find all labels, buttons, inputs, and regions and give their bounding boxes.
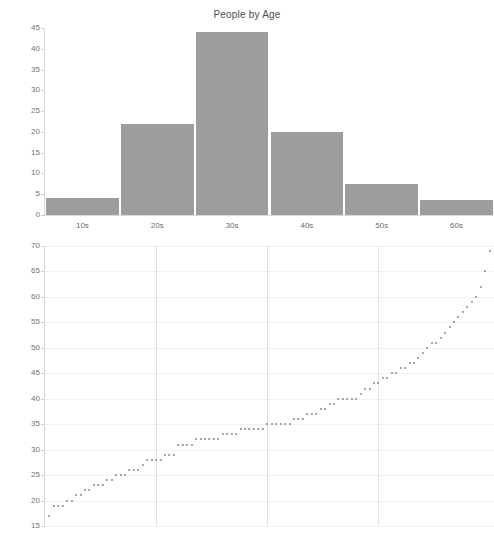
histogram-bar (45, 198, 120, 215)
scatter-point (71, 500, 73, 502)
histogram-y-tick-mark (41, 70, 44, 71)
histogram-bar (419, 200, 494, 215)
histogram-y-tick-label: 20 (12, 128, 40, 136)
scatter-point (480, 286, 482, 288)
histogram-y-tick-mark (41, 215, 44, 216)
scatter-point (240, 428, 242, 430)
scatter-point (311, 413, 313, 415)
scatter-point (435, 342, 437, 344)
histogram-y-tick-label: 35 (12, 66, 40, 74)
histogram-y-tick-label: 30 (12, 86, 40, 94)
scatter-y-tick-label: 35 (12, 420, 40, 428)
scatter-point (293, 418, 295, 420)
scatter-point (329, 403, 331, 405)
scatter-point (186, 444, 188, 446)
scatter-y-tick-label: 25 (12, 471, 40, 479)
scatter-point (111, 479, 113, 481)
histogram-bar (195, 32, 270, 215)
scatter-point (155, 459, 157, 461)
scatter-point (369, 388, 371, 390)
scatter-chart: 152025303540455055606570 (0, 237, 494, 543)
scatter-y-axis (44, 246, 45, 527)
scatter-point (320, 408, 322, 410)
scatter-point (351, 398, 353, 400)
histogram-x-tick-label: 20s (120, 222, 195, 230)
scatter-point (289, 423, 291, 425)
histogram-x-tick-label: 60s (419, 222, 494, 230)
histogram-y-tick-label: 45 (12, 24, 40, 32)
scatter-horizontal-gridline (45, 501, 494, 502)
scatter-point (364, 388, 366, 390)
histogram-y-tick-mark (41, 90, 44, 91)
histogram-y-tick-label: 40 (12, 45, 40, 53)
scatter-vertical-gridline (378, 246, 379, 526)
scatter-point (409, 362, 411, 364)
scatter-point (62, 505, 64, 507)
scatter-y-tick-label: 65 (12, 267, 40, 275)
histogram-y-tick-mark (41, 153, 44, 154)
scatter-point (173, 454, 175, 456)
histogram-y-tick-label: 15 (12, 149, 40, 157)
histogram-y-tick-mark (41, 132, 44, 133)
scatter-y-tick-label: 20 (12, 497, 40, 505)
scatter-point (164, 454, 166, 456)
scatter-y-tick-label: 60 (12, 293, 40, 301)
scatter-point (142, 464, 144, 466)
scatter-y-tick-mark (41, 373, 44, 374)
scatter-y-tick-mark (41, 450, 44, 451)
scatter-y-tick-mark (41, 475, 44, 476)
histogram-y-axis (44, 28, 45, 216)
scatter-point (440, 337, 442, 339)
histogram-y-tick-label: 10 (12, 169, 40, 177)
scatter-point (133, 469, 135, 471)
scatter-vertical-gridline (156, 246, 157, 526)
histogram-x-tick-label: 50s (344, 222, 419, 230)
histogram-y-tick-mark (41, 173, 44, 174)
scatter-y-tick-mark (41, 297, 44, 298)
scatter-point (489, 250, 491, 252)
histogram-title: People by Age (0, 9, 494, 20)
scatter-point (324, 408, 326, 410)
scatter-y-tick-mark (41, 424, 44, 425)
histogram-x-tick-label: 40s (270, 222, 345, 230)
histogram-chart: People by Age 051015202530354045 10s20s3… (0, 0, 494, 237)
histogram-bar (120, 124, 195, 215)
histogram-y-tick-label: 0 (12, 211, 40, 219)
scatter-horizontal-gridline (45, 450, 494, 451)
scatter-point (120, 474, 122, 476)
scatter-point (271, 423, 273, 425)
histogram-y-tick-mark (41, 49, 44, 50)
histogram-bar (344, 184, 419, 215)
histogram-bar (270, 132, 345, 215)
scatter-horizontal-gridline (45, 399, 494, 400)
scatter-point (431, 342, 433, 344)
histogram-x-tick-label: 30s (195, 222, 270, 230)
scatter-point (280, 423, 282, 425)
scatter-y-tick-mark (41, 501, 44, 502)
scatter-point (53, 505, 55, 507)
scatter-point (400, 367, 402, 369)
scatter-y-tick-mark (41, 526, 44, 527)
scatter-point (342, 398, 344, 400)
histogram-x-axis (44, 215, 494, 216)
scatter-y-tick-mark (41, 246, 44, 247)
scatter-point (422, 352, 424, 354)
histogram-y-tick-mark (41, 28, 44, 29)
chart-figure: People by Age 051015202530354045 10s20s3… (0, 0, 494, 543)
scatter-horizontal-gridline (45, 526, 494, 527)
histogram-y-tick-label: 25 (12, 107, 40, 115)
scatter-horizontal-gridline (45, 424, 494, 425)
scatter-point (444, 332, 446, 334)
scatter-horizontal-gridline (45, 246, 494, 247)
histogram-y-tick-mark (41, 111, 44, 112)
scatter-horizontal-gridline (45, 475, 494, 476)
scatter-y-tick-mark (41, 348, 44, 349)
scatter-point (355, 398, 357, 400)
scatter-point (471, 301, 473, 303)
scatter-y-tick-label: 70 (12, 242, 40, 250)
scatter-y-tick-mark (41, 322, 44, 323)
scatter-plot-area (45, 246, 494, 526)
scatter-point (191, 444, 193, 446)
scatter-y-tick-label: 50 (12, 344, 40, 352)
histogram-y-tick-mark (41, 194, 44, 195)
